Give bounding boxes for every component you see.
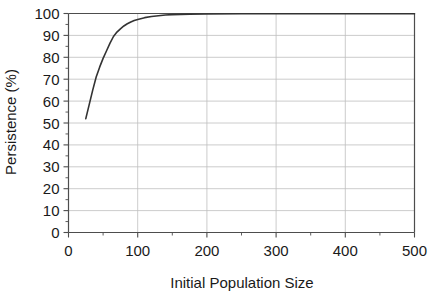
chart-figure: 0102030405060708090100 0100200300400500 … [0, 0, 435, 294]
x-tick-label: 400 [333, 242, 358, 259]
y-tick-label: 0 [51, 224, 59, 241]
y-tick-label: 20 [43, 180, 60, 197]
x-tick-label: 200 [194, 242, 219, 259]
y-tick-label: 90 [43, 27, 60, 44]
x-tick-label: 500 [402, 242, 427, 259]
x-tick-label: 300 [264, 242, 289, 259]
y-tick-label: 70 [43, 71, 60, 88]
x-axis-title: Initial Population Size [170, 274, 313, 291]
y-tick-label: 60 [43, 93, 60, 110]
y-tick-label: 30 [43, 158, 60, 175]
persistence-vs-population-line-chart: 0102030405060708090100 0100200300400500 … [0, 0, 435, 294]
y-tick-label: 40 [43, 136, 60, 153]
y-tick-label: 50 [43, 115, 60, 132]
x-tick-label: 100 [125, 242, 150, 259]
x-tick-label: 0 [64, 242, 72, 259]
y-tick-label: 100 [34, 5, 59, 22]
y-tick-label: 80 [43, 49, 60, 66]
y-axis-title: Persistence (%) [2, 69, 19, 175]
y-tick-label: 10 [43, 202, 60, 219]
